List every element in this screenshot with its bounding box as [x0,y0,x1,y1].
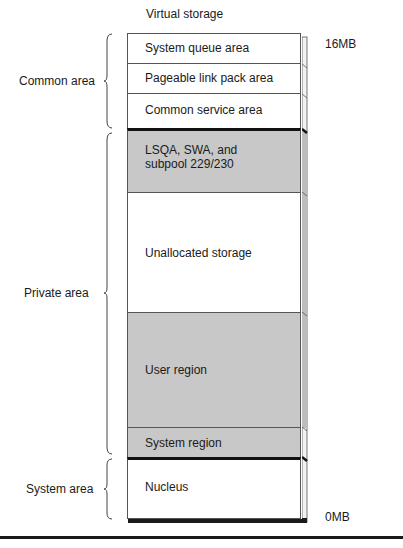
segment-lsqa-swa-subpool: LSQA, SWA, and subpool 229/230 [127,128,301,193]
bottom-address-label: 0MB [325,510,350,524]
stack-side-face [302,34,307,524]
brace-private-area [104,132,114,455]
segment-unallocated-storage: Unallocated storage [127,192,301,313]
segment-nucleus: Nucleus [127,457,301,519]
group-label-common-area: Common area [19,74,95,88]
brace-common-area [104,33,114,129]
stack-bottom-edge [128,519,306,523]
segment-system-queue-area: System queue area [127,33,301,64]
segment-user-region: User region [127,312,301,428]
group-label-private-area: Private area [24,286,89,300]
segment-common-service-area: Common service area [127,93,301,129]
segment-pageable-link-pack-area: Pageable link pack area [127,63,301,94]
group-label-system-area: System area [26,482,93,496]
segment-system-region: System region [127,427,301,458]
figure-rule [0,536,403,539]
brace-system-area [104,458,114,520]
top-address-label: 16MB [325,37,356,51]
diagram-title: Virtual storage [146,7,223,21]
